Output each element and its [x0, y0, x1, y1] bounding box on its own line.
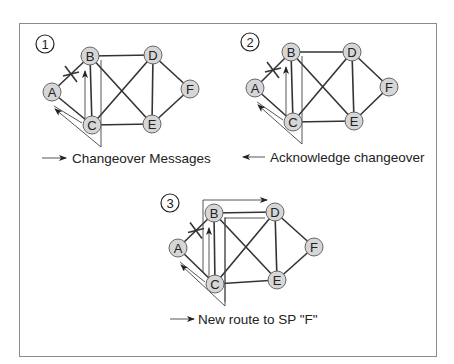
svg-text:D: D — [347, 45, 356, 60]
node-F: F — [305, 238, 323, 256]
node-A: A — [169, 239, 187, 257]
svg-text:B: B — [287, 45, 296, 60]
panel-3: ABCDEF3New route to SP "F" — [161, 194, 323, 327]
node-E: E — [268, 271, 286, 289]
step-number-badge: 3 — [161, 194, 179, 212]
step-number-badge: 2 — [241, 33, 259, 51]
svg-text:F: F — [186, 82, 194, 97]
node-D: D — [266, 203, 284, 221]
links — [178, 212, 314, 284]
svg-text:B: B — [86, 49, 95, 64]
panel-2: ABCDEF2Acknowledge changeover — [241, 33, 425, 165]
svg-text:E: E — [273, 273, 282, 288]
link-BC — [291, 52, 293, 122]
legend-label: Acknowledge changeover — [270, 150, 425, 165]
svg-text:A: A — [251, 81, 260, 96]
svg-text:3: 3 — [166, 196, 173, 211]
svg-text:A: A — [48, 85, 57, 100]
svg-text:F: F — [310, 240, 318, 255]
link-DE — [352, 52, 354, 121]
node-E: E — [345, 112, 363, 130]
svg-text:C: C — [288, 115, 297, 130]
node-A: A — [246, 79, 264, 97]
svg-text:D: D — [148, 48, 157, 63]
svg-text:D: D — [270, 205, 279, 220]
svg-text:1: 1 — [41, 37, 48, 52]
svg-text:2: 2 — [246, 35, 253, 50]
node-D: D — [144, 46, 162, 64]
node-B: B — [282, 43, 300, 61]
node-C: C — [206, 275, 224, 293]
node-F: F — [181, 80, 199, 98]
svg-text:E: E — [350, 114, 359, 129]
link-DE — [275, 212, 277, 280]
legend-label: New route to SP "F" — [198, 312, 318, 327]
svg-text:C: C — [87, 118, 96, 133]
svg-text:C: C — [210, 277, 219, 292]
link-DE — [152, 55, 153, 124]
svg-text:E: E — [148, 117, 157, 132]
links — [52, 55, 190, 125]
node-D: D — [343, 43, 361, 61]
node-C: C — [83, 116, 101, 134]
svg-text:B: B — [210, 206, 219, 221]
svg-text:A: A — [174, 241, 183, 256]
legend-label: Changeover Messages — [72, 151, 211, 166]
step-number-badge: 1 — [36, 35, 54, 53]
node-F: F — [380, 78, 398, 96]
network-diagram: ABCDEF1Changeover MessagesABCDEF2Acknowl… — [0, 0, 454, 364]
node-C: C — [284, 113, 302, 131]
node-E: E — [143, 115, 161, 133]
svg-text:F: F — [385, 80, 393, 95]
panel-1: ABCDEF1Changeover Messages — [36, 35, 211, 166]
message-path — [180, 200, 267, 306]
node-B: B — [81, 47, 99, 65]
node-B: B — [205, 204, 223, 222]
node-A: A — [43, 83, 61, 101]
link-BC — [90, 56, 92, 125]
links — [255, 52, 389, 122]
link-BC — [214, 213, 215, 284]
